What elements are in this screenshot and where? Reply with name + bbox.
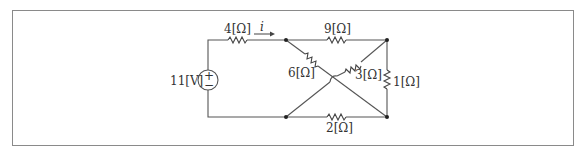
resistor-9ohm-label: 9[Ω] — [324, 22, 351, 36]
wire-diag-ad-1 — [286, 40, 305, 54]
wire-diag-cb-3 — [361, 40, 387, 62]
resistor-2ohm — [327, 114, 346, 120]
current-arrow-head — [270, 32, 275, 37]
wire-left-bottom — [208, 90, 286, 117]
source-minus: − — [204, 78, 214, 92]
resistor-3ohm-label: 3[Ω] — [355, 68, 382, 82]
node-d — [385, 115, 389, 119]
resistor-2ohm-label: 2[Ω] — [326, 121, 353, 135]
source-label: 11[V] — [170, 74, 203, 88]
resistor-6ohm-label: 6[Ω] — [288, 66, 315, 80]
resistor-1ohm — [384, 70, 390, 89]
node-c — [284, 115, 288, 119]
resistor-9ohm — [327, 37, 346, 43]
wire-left-top — [208, 40, 228, 70]
resistor-4ohm-label: 4[Ω] — [224, 22, 251, 36]
node-b — [385, 38, 389, 42]
resistor-4ohm — [228, 37, 247, 43]
resistor-6ohm — [305, 53, 318, 67]
node-a — [284, 38, 288, 42]
wire-diag-cb-1 — [286, 82, 330, 117]
resistor-1ohm-label: 1[Ω] — [393, 75, 420, 89]
current-label: i — [260, 20, 264, 34]
circuit-diagram: + − 11[V] 4[Ω] i 9[Ω] 6[Ω] 3[Ω] 1[Ω] 2[Ω… — [0, 0, 583, 152]
wire-diag-cb-2 — [337, 72, 345, 76]
